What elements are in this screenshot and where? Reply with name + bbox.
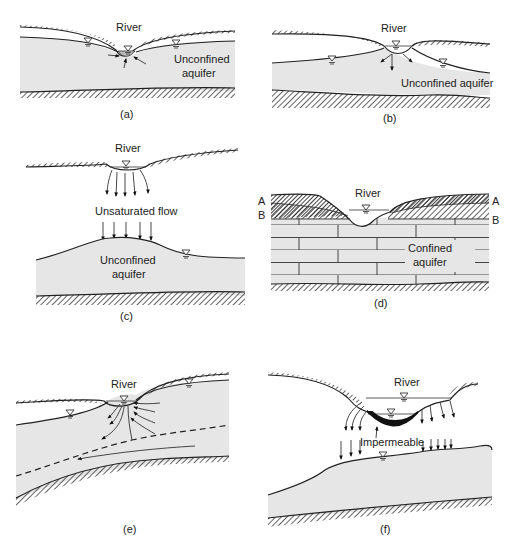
- river-label-d: River: [355, 187, 381, 199]
- aquifer-label-a-line2: aquifer: [182, 67, 216, 79]
- panel-d: River A B A B Confined aquifer (d): [258, 187, 500, 309]
- panel-f: Impermeable River (f): [268, 372, 492, 535]
- river-label-f: River: [394, 376, 420, 388]
- layer-label-a-right: A: [492, 195, 500, 207]
- layer-label-b-left: B: [258, 209, 265, 221]
- river-label-c: River: [115, 142, 141, 154]
- layer-label-a-left: A: [258, 195, 266, 207]
- panel-e: River (e): [16, 372, 229, 535]
- caption-e: (e): [123, 523, 136, 535]
- caption-f: (f): [380, 523, 390, 535]
- aquifer-label-b: Unconfined aquifer: [401, 77, 494, 89]
- panel-a: River Unconfined aquifer (a): [20, 21, 235, 120]
- panel-c: Unsaturated flow River Unconfined aquife…: [26, 142, 245, 322]
- caption-a: (a): [120, 108, 133, 120]
- river-label-e: River: [111, 378, 137, 390]
- unsaturated-flow-label: Unsaturated flow: [95, 205, 178, 217]
- river-aquifer-diagram: River Unconfined aquifer (a) River Uncon…: [0, 0, 510, 550]
- aquifer-label-c-line2: aquifer: [112, 268, 146, 280]
- aquifer-label-d-line1: Confined: [408, 242, 452, 254]
- aquifer-label-d-line2: aquifer: [413, 256, 447, 268]
- aquifer-label-a-line1: Unconfined: [174, 53, 230, 65]
- river-label-b: River: [381, 22, 407, 34]
- caption-c: (c): [120, 310, 133, 322]
- river-label-a: River: [116, 21, 142, 33]
- caption-d: (d): [374, 297, 387, 309]
- layer-label-b-right: B: [492, 214, 499, 226]
- panel-b: River Unconfined aquifer (b): [272, 22, 494, 124]
- impermeable-label: Impermeable: [360, 436, 424, 448]
- caption-b: (b): [383, 112, 396, 124]
- aquifer-label-c-line1: Unconfined: [100, 254, 156, 266]
